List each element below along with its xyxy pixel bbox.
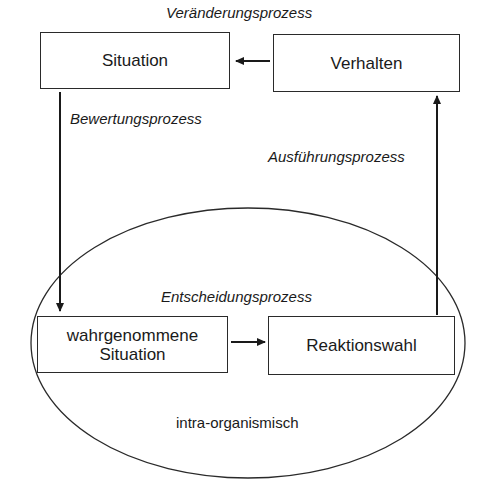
label-ausfuehrungsprozess: Ausführungsprozess: [268, 148, 405, 165]
node-situation-text: Situation: [102, 51, 168, 70]
label-veraenderungsprozess: Veränderungsprozess: [166, 4, 312, 21]
label-intra-organismisch: intra-organismisch: [176, 414, 299, 431]
node-wahrgenommene-line2: Situation: [99, 345, 165, 364]
node-verhalten-text: Verhalten: [331, 54, 403, 73]
node-situation: Situation: [40, 32, 230, 89]
node-reaktionswahl-text: Reaktionswahl: [306, 336, 417, 355]
label-bewertungsprozess: Bewertungsprozess: [70, 110, 202, 127]
label-entscheidungsprozess: Entscheidungsprozess: [161, 288, 312, 305]
node-wahrgenommene-line1: wahrgenommene: [67, 326, 198, 345]
node-wahrgenommene-situation: wahrgenommene Situation: [37, 316, 228, 373]
node-verhalten: Verhalten: [273, 34, 460, 92]
node-reaktionswahl: Reaktionswahl: [268, 316, 455, 375]
